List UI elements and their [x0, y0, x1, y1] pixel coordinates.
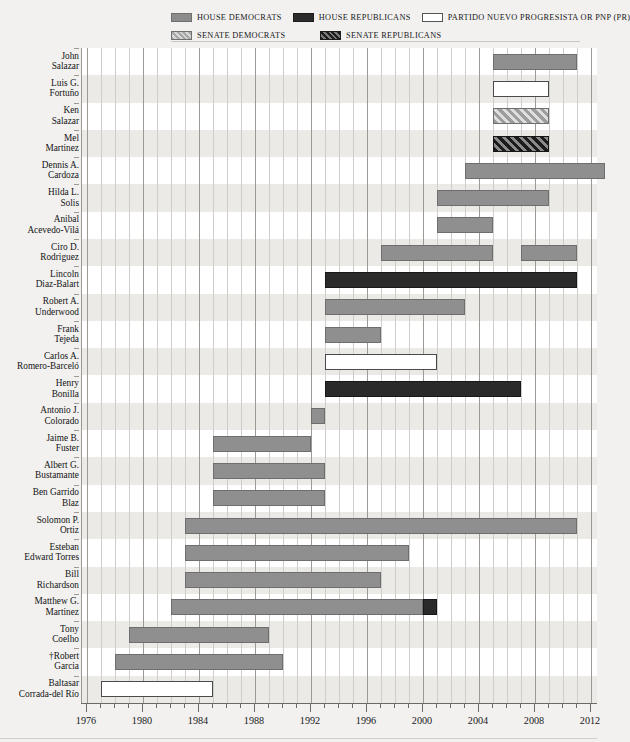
legend-label: HOUSE DEMOCRATS	[197, 13, 282, 22]
term-bar[interactable]	[311, 408, 325, 424]
term-bar[interactable]	[185, 545, 409, 561]
legend-item-senate-democrats[interactable]: SENATE DEMOCRATS	[171, 31, 320, 40]
legend-item-senate-republicans[interactable]: SENATE REPUBLICANS	[320, 31, 441, 40]
gridline-2003	[465, 48, 466, 703]
legend-label: SENATE DEMOCRATS	[197, 31, 285, 40]
term-bar[interactable]	[213, 463, 325, 479]
member-name-line2: Bustamante	[1, 470, 79, 480]
member-name-line1: Dennis A.	[1, 160, 79, 170]
term-bar[interactable]	[521, 245, 577, 261]
axis-tick-1995	[352, 704, 353, 708]
term-bar[interactable]	[325, 381, 521, 397]
axis-tick-label: 1996	[356, 715, 376, 726]
member-name-line1: Anibal	[1, 214, 79, 224]
member-name-line2: Edward Torres	[1, 552, 79, 562]
member-name-line2: Martinez	[1, 143, 79, 153]
member-name-line2: Cardoza	[1, 170, 79, 180]
member-name-line1: Frank	[1, 324, 79, 334]
term-bar[interactable]	[115, 654, 283, 670]
axis-tick-2010	[562, 704, 563, 708]
term-bar[interactable]	[325, 299, 465, 315]
term-bar[interactable]	[101, 681, 213, 697]
member-name-line1: Baltasar	[1, 678, 79, 688]
member-name-line1: Jaime B.	[1, 433, 79, 443]
axis-tick-1982	[170, 704, 171, 708]
row-tick	[74, 239, 79, 240]
axis-tick-label: 2000	[412, 715, 432, 726]
legend-row-2: SENATE DEMOCRATS SENATE REPUBLICANS	[171, 27, 580, 43]
member-name-label: Albert G.Bustamante	[1, 460, 79, 481]
member-name-label: Robert A.Underwood	[1, 296, 79, 317]
member-name-label: MelMartinez	[1, 133, 79, 154]
axis-tick-1978	[114, 704, 115, 708]
row-tick	[74, 103, 79, 104]
member-name-label: Hilda L.Solis	[1, 187, 79, 208]
senate-democrats-swatch-icon	[171, 31, 192, 40]
legend-label: HOUSE REPUBLICANS	[319, 13, 411, 22]
row-tick	[74, 485, 79, 486]
axis-tick-1984	[198, 704, 199, 712]
gridline-1978	[115, 48, 116, 703]
member-name-line1: Bill	[1, 569, 79, 579]
term-bar[interactable]	[381, 245, 493, 261]
term-bar[interactable]	[171, 599, 423, 615]
term-bar[interactable]	[493, 54, 577, 70]
axis-tick-label: 1988	[244, 715, 264, 726]
term-bar[interactable]	[465, 163, 605, 179]
axis-tick-1999	[408, 704, 409, 708]
member-name-line2: Fuster	[1, 443, 79, 453]
legend-row-1: HOUSE DEMOCRATS HOUSE REPUBLICANS PARTID…	[171, 9, 580, 25]
member-name-label: Ciro D.Rodriguez	[1, 242, 79, 263]
term-bar[interactable]	[325, 327, 381, 343]
member-name-line1: John	[1, 51, 79, 61]
term-bar[interactable]	[437, 217, 493, 233]
term-bar[interactable]	[423, 599, 437, 615]
term-bar[interactable]	[437, 190, 549, 206]
gridline-1979	[129, 48, 130, 703]
member-name-label: FrankTejeda	[1, 324, 79, 345]
legend-label: SENATE REPUBLICANS	[346, 31, 441, 40]
term-bar[interactable]	[325, 354, 437, 370]
legend: HOUSE DEMOCRATS HOUSE REPUBLICANS PARTID…	[171, 9, 580, 42]
term-bar[interactable]	[493, 136, 549, 152]
term-bar[interactable]	[213, 436, 311, 452]
term-bar[interactable]	[213, 490, 325, 506]
term-bar[interactable]	[325, 272, 577, 288]
term-bar[interactable]	[129, 627, 269, 643]
term-bar[interactable]	[493, 108, 549, 124]
row-tick	[74, 294, 79, 295]
member-name-label: LincolnDiaz-Balart	[1, 269, 79, 290]
member-name-line2: Colorado	[1, 416, 79, 426]
footer-rule	[0, 738, 597, 739]
term-bar[interactable]	[185, 572, 381, 588]
row-tick	[74, 403, 79, 404]
gridline-1977	[101, 48, 102, 703]
member-name-line2: Salazar	[1, 61, 79, 71]
member-name-label: EstebanEdward Torres	[1, 542, 79, 563]
axis-tick-1983	[184, 704, 185, 708]
row-tick	[74, 266, 79, 267]
term-bar[interactable]	[493, 81, 549, 97]
member-name-label: Antonio J.Colorado	[1, 405, 79, 426]
term-bar[interactable]	[185, 518, 577, 534]
member-name-line2: Coelho	[1, 634, 79, 644]
legend-item-house-democrats[interactable]: HOUSE DEMOCRATS	[171, 13, 282, 22]
legend-item-pnp[interactable]: PARTIDO NUEVO PROGRESISTA OR PNP (PR)	[422, 13, 630, 22]
axis-tick-1989	[268, 704, 269, 708]
member-name-line2: Diaz-Balart	[1, 279, 79, 289]
row-tick	[74, 184, 79, 185]
legend-item-house-republicans[interactable]: HOUSE REPUBLICANS	[293, 13, 411, 22]
member-name-line1: Robert A.	[1, 296, 79, 306]
pnp-swatch-icon	[422, 13, 443, 22]
gridline-1981	[157, 48, 158, 703]
member-name-label: †RobertGarcia	[1, 651, 79, 672]
row-tick	[74, 430, 79, 431]
plot-area	[81, 48, 597, 703]
member-name-label: JohnSalazar	[1, 51, 79, 72]
axis-tick-1991	[296, 704, 297, 708]
axis-tick-2012	[590, 704, 591, 712]
gridline-1976	[87, 48, 88, 703]
axis-tick-2006	[506, 704, 507, 708]
member-name-line1: Henry	[1, 378, 79, 388]
